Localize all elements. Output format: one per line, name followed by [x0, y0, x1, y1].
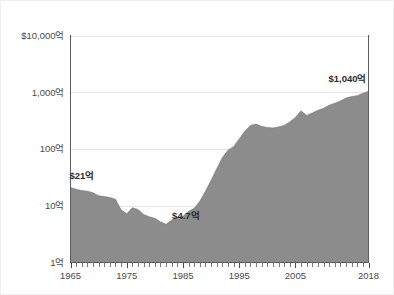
area-series-group [71, 91, 369, 262]
y-tick-label-0: $10,000억 [21, 30, 64, 41]
x-tick-label-1975: 1975 [116, 270, 137, 281]
y-tick-label-2: 100억 [40, 143, 65, 154]
x-tick-label-1965: 1965 [60, 270, 81, 281]
y-axis-tick-labels: $10,000억1,000억100억10억1억 [21, 30, 64, 268]
annotation-2: $1,040억 [328, 73, 366, 84]
x-tick-label-2018: 2018 [358, 270, 379, 281]
y-tick-label-1: 1,000억 [32, 87, 65, 98]
x-tick-label-1995: 1995 [229, 270, 250, 281]
x-tick-label-2005: 2005 [285, 270, 306, 281]
y-tick-label-3: 10억 [45, 200, 65, 211]
y-tick-label-4: 1억 [50, 257, 64, 268]
annotation-0: $21억 [70, 170, 95, 181]
chart-figure: $10,000억1,000억100억10억1억 1965197519851995… [0, 0, 394, 295]
x-axis-tick-labels: 196519751985199520052018 [60, 270, 379, 281]
area-series-path [71, 91, 369, 262]
x-tick-label-1985: 1985 [172, 270, 193, 281]
area-chart: $10,000억1,000억100억10억1억 1965197519851995… [0, 0, 394, 295]
annotation-1: $4.7억 [172, 210, 200, 221]
tick-marks [72, 263, 370, 268]
